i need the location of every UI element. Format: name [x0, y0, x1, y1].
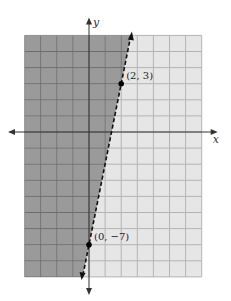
- x-axis-label: x: [213, 133, 220, 146]
- data-point: [118, 81, 124, 87]
- y-axis-up-arrow-icon: [86, 17, 92, 24]
- y-axis-down-arrow-icon: [86, 288, 92, 295]
- point-label: (0, −7): [94, 231, 129, 242]
- x-axis-left-arrow-icon: [8, 129, 15, 135]
- data-point: [86, 242, 92, 248]
- point-label: (2, 3): [126, 70, 153, 81]
- graph-canvas: xy(2, 3)(0, −7): [0, 0, 231, 301]
- y-axis-label: y: [92, 16, 100, 29]
